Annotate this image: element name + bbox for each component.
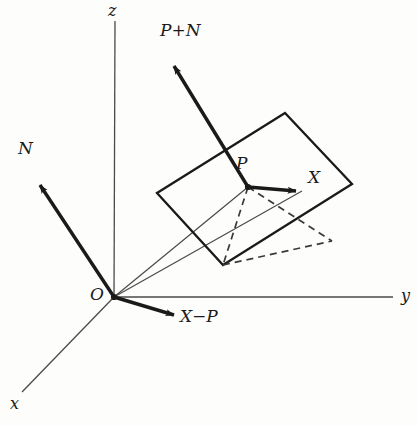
origin-label: O	[90, 286, 104, 303]
ray-origin-to-P	[114, 187, 248, 297]
vector-P-to-X-shaft	[248, 187, 296, 191]
ray-origin-to-X	[114, 191, 302, 297]
y-axis-label: y	[401, 288, 410, 304]
dashed-bottom-to-right	[223, 241, 332, 265]
figure-canvas	[0, 0, 418, 426]
origin-marker	[111, 294, 117, 300]
vector-X-minus-P-shaft	[114, 297, 174, 315]
vectors-group	[40, 66, 296, 315]
axes-group	[22, 21, 393, 392]
x-axis-label: x	[10, 396, 19, 412]
dashed-P-to-bottom-corner	[223, 187, 248, 265]
vector-N-label: N	[18, 140, 33, 157]
point-P-label: P	[236, 155, 247, 172]
z-axis-label: z	[108, 3, 116, 19]
vector-X-minus-P-label: X−P	[180, 308, 218, 325]
vector-X-label: X	[308, 169, 320, 186]
geometry-figure: x y z O N P+N X−P X P	[0, 0, 418, 426]
vector-N-shaft	[40, 185, 114, 297]
z-axis-line	[114, 21, 115, 297]
vector-P-plus-N-label: P+N	[160, 22, 201, 39]
x-axis-line	[22, 297, 114, 392]
point-P-marker	[245, 184, 251, 190]
